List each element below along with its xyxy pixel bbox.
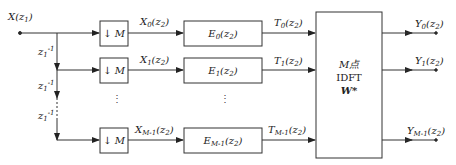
downsampler-label-m1: ↓ M — [100, 136, 128, 146]
input-label: X(z1) — [8, 12, 33, 24]
signal-xm1-label: XM-1(z2) — [135, 125, 174, 137]
idft-label: M点 IDFT W* — [316, 58, 382, 97]
ellipsis-filter: ⋮ — [220, 97, 230, 101]
downsampler-label-0: ↓ M — [100, 29, 128, 39]
signal-t0-label: T0(z2) — [274, 18, 303, 30]
delay-label-1: z1-1 — [38, 46, 55, 59]
output-y1-label: Y1(z2) — [415, 56, 444, 68]
signal-x0-label: X0(z2) — [140, 17, 169, 29]
delay-label-2: z1-1 — [38, 80, 55, 93]
downsampler-label-1: ↓ M — [100, 66, 128, 76]
signal-x1-label: X1(z2) — [140, 55, 169, 67]
idft-line-2: IDFT — [316, 71, 382, 84]
signal-tm1-label: TM-1(z2) — [268, 125, 306, 137]
ellipsis-downsampler: ⋮ — [112, 97, 122, 101]
idft-line-3: W* — [316, 84, 382, 97]
filter-label-1: E1(z2) — [184, 66, 262, 78]
idft-line-1: M点 — [316, 58, 382, 71]
filter-label-0: E0(z2) — [184, 29, 262, 41]
delay-label-3: z1-1 — [38, 110, 55, 123]
filter-label-m1: EM-1(z2) — [184, 136, 262, 148]
output-ym1-label: YM-1(z2) — [407, 126, 445, 138]
output-y0-label: Y0(z2) — [415, 19, 444, 31]
signal-t1-label: T1(z2) — [274, 56, 303, 68]
